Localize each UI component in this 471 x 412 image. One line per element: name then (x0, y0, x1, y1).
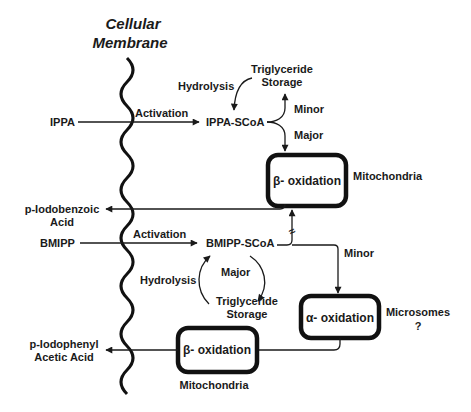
iodophenyl-label-line2: Acetic Acid (34, 351, 94, 363)
bmipp-minor-label: Minor (344, 247, 375, 259)
bmipp-scoa-label: BMIPP-SCoA (206, 237, 275, 249)
ippa-activation-label: Activation (135, 107, 188, 119)
bmipp-storage-line2: Storage (227, 308, 268, 320)
ippa-storage-line2: Storage (262, 76, 303, 88)
mitochondria-label-upper: Mitochondria (353, 170, 423, 182)
membrane-title-line1: Cellular (105, 15, 161, 32)
ippa-label: IPPA (50, 116, 75, 128)
bmipp-label: BMIPP (40, 237, 75, 249)
ippa-minor-arrow (267, 94, 285, 122)
microsomes-label: Microsomes (386, 306, 450, 318)
ippa-scoa-label: IPPA-SCoA (206, 116, 265, 128)
microsomes-question-mark: ? (415, 320, 422, 332)
bmipp-major-label: Major (221, 266, 251, 278)
iodobenzoic-label-line1: p-Iodobenzoic (25, 203, 100, 215)
bmipp-storage-line1: Triglyceride (216, 295, 278, 307)
ippa-hydrolysis-label: Hydrolysis (178, 80, 234, 92)
ippa-major-arrow (267, 122, 285, 151)
bmipp-hydrolysis-arrow (199, 256, 210, 304)
bmipp-activation-label: Activation (133, 228, 186, 240)
bmipp-hydrolysis-label: Hydrolysis (140, 274, 196, 286)
bmipp-minor-alpha-arrow (292, 245, 338, 293)
beta-oxidation-label-upper: β- oxidation (273, 174, 341, 188)
membrane-title-line2: Membrane (92, 34, 167, 51)
ippa-minor-label: Minor (294, 103, 325, 115)
iodobenzoic-label-line2: Acid (50, 216, 74, 228)
ippa-major-label: Major (294, 129, 324, 141)
ippa-storage-line1: Triglyceride (251, 63, 313, 75)
mitochondria-label-lower: Mitochondria (179, 379, 249, 391)
beta-oxidation-label-lower: β- oxidation (183, 343, 251, 357)
iodophenyl-label-line1: p-Iodophenyl (29, 338, 98, 350)
cell-membrane-line (121, 58, 133, 394)
blocked-symbol: ≈ (286, 224, 297, 237)
ippa-hydrolysis-arrow (234, 78, 252, 110)
alpha-oxidation-label: α- oxidation (306, 311, 374, 325)
metabolism-diagram: Cellular Membrane IPPA Activation IPPA-S… (0, 0, 471, 412)
